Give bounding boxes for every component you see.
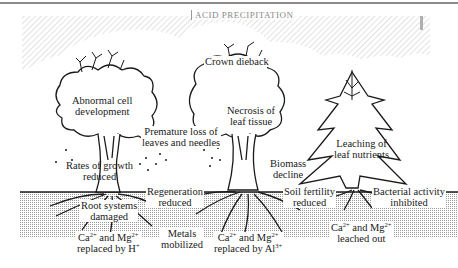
ion-mg: and Mg [236, 232, 271, 243]
label-line: Abnormal cell [72, 95, 132, 106]
ion-charge: 2+ [271, 231, 278, 238]
label-abnormal-cell-development: Abnormal cell development [72, 95, 132, 117]
ion-charge: 2+ [385, 221, 392, 228]
ion-mg: and Mg [350, 222, 385, 233]
label-line: reduced [147, 197, 203, 208]
label-leaching-leaf-nutrients: Leaching of leaf nutrients [334, 138, 389, 160]
ion-charge: + [136, 242, 140, 249]
label-line: replaced by H+ [77, 243, 140, 254]
label-necrosis-leaf-tissue: Necrosis of leaf tissue [227, 105, 275, 127]
label-line: leaves and needles [142, 137, 220, 148]
label-root-systems-damaged: Root systems damaged [80, 200, 138, 222]
label-line: leached out [331, 233, 392, 244]
tree-3-conifer [300, 70, 406, 188]
label-line: leaf nutrients [334, 149, 389, 160]
label-biomass-decline: Biomass decline [270, 158, 306, 180]
ion-replacement: replaced by Al [214, 243, 275, 254]
label-soil-fertility-reduced: Soil fertility reduced [283, 186, 336, 208]
label-rates-of-growth: Rates of growth reduced [66, 160, 133, 182]
ion-charge: 2+ [343, 221, 350, 228]
label-line: Premature loss of [142, 126, 220, 137]
label-premature-loss: Premature loss of leaves and needles [141, 126, 221, 148]
ion-mg: and Mg [97, 232, 132, 243]
label-ions-replaced-by-al: Ca2+ and Mg2+ replaced by Al3+ [213, 232, 283, 254]
diagram-title: ACID PRECIPITATION [191, 10, 297, 20]
ion-charge: 3+ [275, 242, 282, 249]
label-metals-mobilized: Metals mobilized [160, 228, 204, 250]
label-line: Bacterial activity [373, 186, 445, 197]
label-ions-leached-out: Ca2+ and Mg2+ leached out [330, 222, 393, 244]
ion-charge: 2+ [132, 231, 139, 238]
ion-ca: Ca [218, 232, 230, 243]
label-line: Soil fertility [284, 186, 335, 197]
label-regeneration-reduced: Regeneration reduced [146, 186, 204, 208]
label-line: damaged [81, 211, 137, 222]
label-line: decline [270, 169, 306, 180]
label-line: Ca2+ and Mg2+ [214, 232, 282, 243]
label-line: leaf tissue [227, 116, 275, 127]
label-line: Leaching of [334, 138, 389, 149]
label-line: Metals [161, 228, 203, 239]
label-line: Ca2+ and Mg2+ [77, 232, 140, 243]
label-bacterial-activity-inhibited: Bacterial activity inhibited [372, 186, 446, 208]
label-line: Regeneration [147, 186, 203, 197]
label-line: inhibited [373, 197, 445, 208]
ion-ca: Ca [78, 232, 90, 243]
label-crown-dieback: Crown dieback [204, 56, 270, 67]
label-line: Rates of growth [66, 160, 133, 171]
label-line: reduced [66, 171, 133, 182]
acid-precipitation-diagram: ACID PRECIPITATION Abnormal cell develop… [0, 0, 458, 268]
label-line: development [72, 106, 132, 117]
ion-replacement: replaced by H [77, 243, 136, 254]
label-line: Root systems [81, 200, 137, 211]
label-line: mobilized [161, 239, 203, 250]
ion-ca: Ca [331, 222, 343, 233]
label-line: Biomass [270, 158, 306, 169]
ion-charge: 2+ [90, 231, 97, 238]
label-line: reduced [284, 197, 335, 208]
label-line: replaced by Al3+ [214, 243, 282, 254]
label-line: Ca2+ and Mg2+ [331, 222, 392, 233]
label-ions-replaced-by-h: Ca2+ and Mg2+ replaced by H+ [76, 232, 141, 254]
label-line: Necrosis of [227, 105, 275, 116]
